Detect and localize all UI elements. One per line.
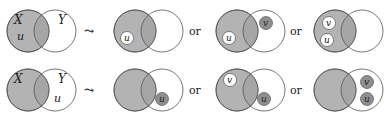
venn-outcome-3-row1: v u xyxy=(314,10,383,52)
element-u-label: u xyxy=(324,35,330,45)
set-y-label: Y xyxy=(58,72,67,86)
element-u-label: u xyxy=(364,94,370,104)
venn-outcome-1-row2: u xyxy=(114,69,183,111)
leads-to-arrow: ⤳ xyxy=(84,24,94,38)
element-v-label: v xyxy=(364,77,369,87)
element-v-label: v xyxy=(227,75,232,85)
venn-initial-row2: X Y u xyxy=(7,69,76,111)
set-y-label: Y xyxy=(58,13,67,27)
venn-outcome-3-row2: v u xyxy=(314,69,383,111)
venn-outcome-2-row1: u v xyxy=(216,10,285,52)
row-u-in-y: X Y u ⤳ u or v u or xyxy=(7,69,383,111)
or-label: or xyxy=(189,84,202,97)
set-x-label: X xyxy=(13,13,23,27)
venn-outcome-2-row2: v u xyxy=(216,69,285,111)
element-u-label: u xyxy=(226,33,232,43)
element-v-label: v xyxy=(326,18,331,28)
element-u-label: u xyxy=(261,94,267,104)
element-u-label: u xyxy=(159,94,165,104)
element-u-label: u xyxy=(124,33,130,43)
set-x-label: X xyxy=(13,72,23,86)
venn-initial-row1: X Y u xyxy=(7,10,76,52)
venn-diagram-figure: X Y u ⤳ u or u v or xyxy=(0,0,387,123)
leads-to-arrow: ⤳ xyxy=(84,83,94,97)
element-u-label: u xyxy=(54,92,61,105)
or-label: or xyxy=(290,84,303,97)
element-v-label: v xyxy=(263,18,268,28)
or-label: or xyxy=(290,25,303,38)
row-u-in-x: X Y u ⤳ u or u v or xyxy=(7,10,383,52)
element-u-label: u xyxy=(17,30,24,43)
venn-outcome-1-row1: u xyxy=(114,10,183,52)
or-label: or xyxy=(189,25,202,38)
